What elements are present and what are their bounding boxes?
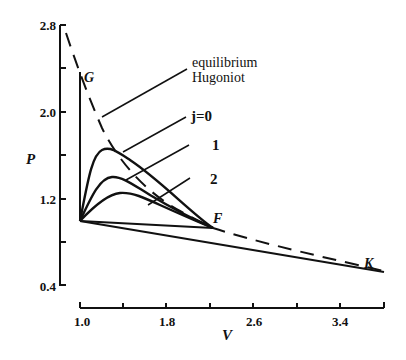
x-axis bbox=[80, 302, 384, 308]
pv-chart: 2.8 2.0 1.2 0.4 P 1.0 1.8 2.6 3.4 V G bbox=[0, 0, 406, 360]
x-tick-1-8: 1.8 bbox=[159, 314, 176, 329]
point-label-g: G bbox=[84, 70, 94, 85]
y-tick-2-8: 2.8 bbox=[40, 18, 57, 33]
leader-lines bbox=[102, 69, 190, 205]
x-tick-3-4: 3.4 bbox=[332, 314, 349, 329]
label-j2: 2 bbox=[210, 171, 218, 187]
y-axis bbox=[60, 25, 66, 286]
label-equilibrium: equilibrium bbox=[192, 55, 257, 70]
rayleigh-lines bbox=[80, 72, 384, 272]
point-label-f: F bbox=[212, 211, 223, 226]
y-tick-1-2: 1.2 bbox=[40, 192, 56, 207]
label-j0: j=0 bbox=[190, 108, 212, 124]
y-axis-title: P bbox=[26, 151, 36, 167]
label-j1: 1 bbox=[212, 137, 220, 153]
curve-j0 bbox=[80, 149, 213, 228]
x-tick-2-6: 2.6 bbox=[246, 314, 263, 329]
x-tick-1-0: 1.0 bbox=[74, 314, 90, 329]
y-tick-2-0: 2.0 bbox=[40, 105, 56, 120]
y-tick-0-4: 0.4 bbox=[40, 279, 57, 294]
x-axis-title: V bbox=[222, 327, 234, 343]
label-hugoniot: Hugoniot bbox=[192, 70, 245, 85]
point-label-k: K bbox=[363, 256, 375, 271]
